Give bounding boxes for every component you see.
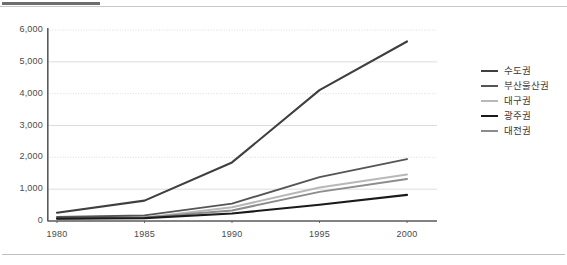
series-line bbox=[57, 175, 407, 219]
x-tick-label: 1980 bbox=[34, 229, 80, 239]
y-axis-labels: 6,0005,0004,0003,0002,0001,0000 bbox=[0, 28, 43, 223]
legend-item[interactable]: 대구권 bbox=[481, 93, 565, 108]
legend-item-label: 대전권 bbox=[504, 125, 531, 136]
line-chart-svg bbox=[47, 28, 437, 223]
y-tick-label: 3,000 bbox=[3, 121, 43, 130]
legend-swatch-line-icon bbox=[481, 85, 498, 87]
y-tick-label: 6,000 bbox=[3, 25, 43, 34]
header-rule-dark bbox=[2, 2, 100, 5]
y-tick-label: 2,000 bbox=[3, 152, 43, 161]
legend-item[interactable]: 수도권 bbox=[481, 63, 565, 78]
legend-swatch-line-icon bbox=[481, 130, 498, 132]
footer-rule bbox=[2, 254, 565, 255]
legend-item[interactable]: 대전권 bbox=[481, 123, 565, 138]
x-tick-label: 1985 bbox=[122, 229, 168, 239]
legend-swatch-line-icon bbox=[481, 115, 498, 117]
legend-item[interactable]: 광주권 bbox=[481, 108, 565, 123]
plot-area bbox=[47, 28, 437, 223]
y-tick-label: 1,000 bbox=[3, 184, 43, 193]
legend-item-label: 광주권 bbox=[504, 110, 531, 121]
legend-swatch-line-icon bbox=[481, 100, 498, 102]
header-rule-thin bbox=[0, 6, 567, 7]
legend-item[interactable]: 부산울산권 bbox=[481, 78, 565, 93]
chart-legend: 수도권부산울산권대구권광주권대전권 bbox=[481, 63, 565, 138]
legend-swatch-line-icon bbox=[481, 70, 498, 72]
x-tick-label: 1995 bbox=[297, 229, 343, 239]
x-tick-label: 1990 bbox=[209, 229, 255, 239]
legend-item-label: 대구권 bbox=[504, 95, 531, 106]
y-tick-label: 5,000 bbox=[3, 57, 43, 66]
legend-item-label: 부산울산권 bbox=[504, 80, 549, 91]
y-tick-label: 4,000 bbox=[3, 89, 43, 98]
chart-figure: 6,0005,0004,0003,0002,0001,0000 19801985… bbox=[0, 0, 567, 265]
x-tick-label: 2000 bbox=[384, 229, 430, 239]
y-tick-label: 0 bbox=[3, 216, 43, 225]
x-axis-labels: 19801985199019952000 bbox=[47, 229, 437, 243]
legend-item-label: 수도권 bbox=[504, 65, 531, 76]
